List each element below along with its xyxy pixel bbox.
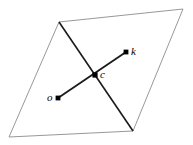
figure-vector-graphic bbox=[0, 0, 193, 145]
point-k-label: k bbox=[131, 46, 136, 57]
segment-o-to-k-line bbox=[58, 52, 126, 98]
figure-canvas: o c k bbox=[0, 0, 193, 145]
point-o-marker bbox=[56, 96, 61, 101]
point-c-marker bbox=[92, 72, 97, 77]
point-c-label: c bbox=[100, 69, 105, 80]
point-k-marker bbox=[124, 50, 129, 55]
point-o-label: o bbox=[47, 92, 53, 103]
